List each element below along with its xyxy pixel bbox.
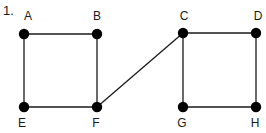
node-E: [19, 102, 29, 112]
graph-diagram: 1. ABCDEFGH: [0, 0, 266, 133]
node-label-E: E: [18, 116, 26, 130]
node-label-A: A: [24, 9, 32, 23]
node-label-F: F: [92, 116, 99, 130]
node-B: [92, 29, 102, 39]
node-label-B: B: [93, 9, 101, 23]
node-label-D: D: [254, 9, 263, 23]
graph-svg: 1. ABCDEFGH: [0, 0, 266, 133]
node-D: [251, 28, 261, 38]
node-label-H: H: [251, 116, 260, 130]
node-G: [178, 102, 188, 112]
node-A: [19, 29, 29, 39]
node-label-G: G: [177, 116, 186, 130]
node-F: [92, 102, 102, 112]
node-label-C: C: [180, 9, 189, 23]
edge-F-C: [97, 33, 183, 107]
node-H: [251, 102, 261, 112]
node-C: [178, 28, 188, 38]
edges-layer: [24, 33, 256, 107]
problem-number: 1.: [3, 3, 14, 18]
